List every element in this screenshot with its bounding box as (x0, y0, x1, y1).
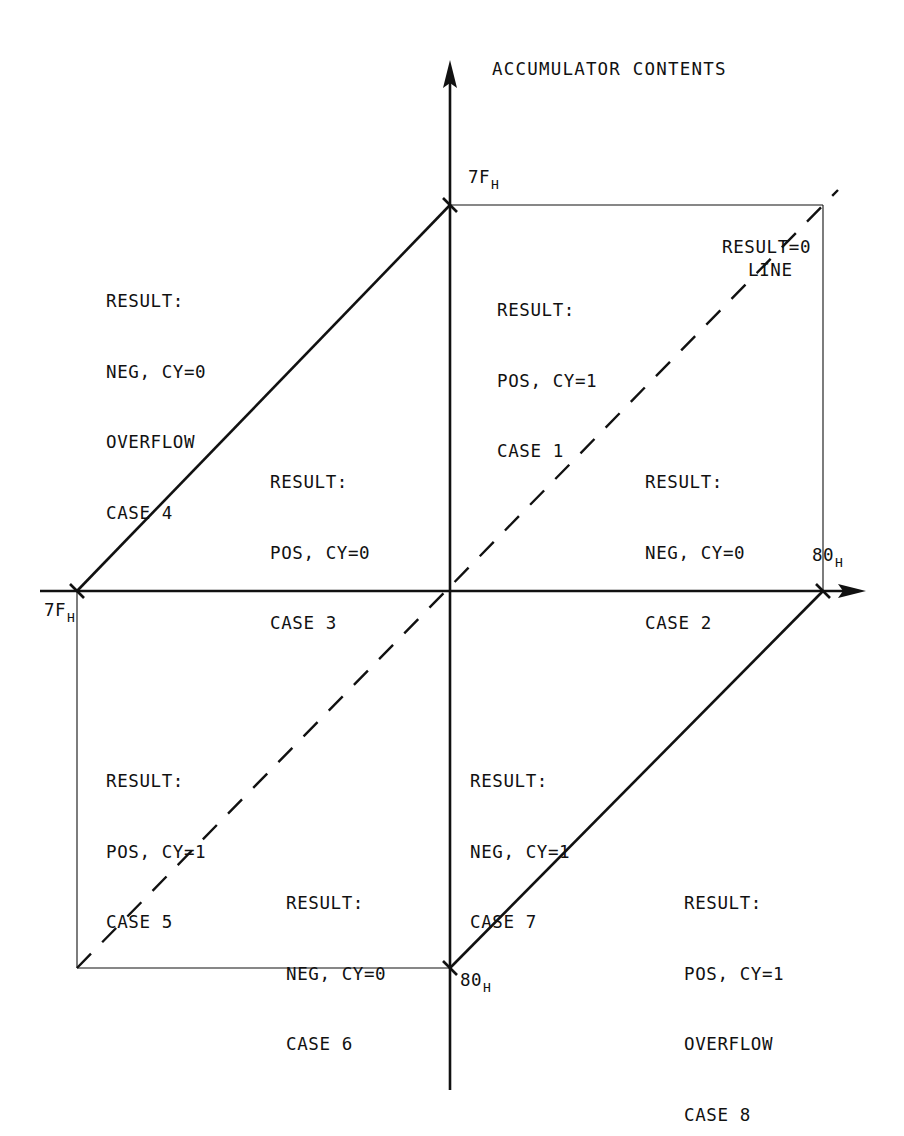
case-6-line-2: CASE 6 (286, 1033, 386, 1057)
tick-label-x-left: 7FH (44, 599, 74, 624)
case-8-line-0: RESULT: (684, 892, 784, 916)
case-8-line-3: CASE 8 (684, 1104, 784, 1128)
tick-label-y-bottom-subscript: H (483, 980, 491, 995)
case-4-line-3: CASE 4 (106, 502, 206, 526)
case-4-line-0: RESULT: (106, 290, 206, 314)
tick-label-x-right: 80H (812, 544, 842, 569)
y-axis-title: ACCUMULATOR CONTENTS (492, 58, 727, 82)
case-2-line-0: RESULT: (645, 471, 745, 495)
case-1-line-1: POS, CY=1 (497, 370, 597, 394)
case-6-line-1: NEG, CY=0 (286, 963, 386, 987)
case-8-line-2: OVERFLOW (684, 1033, 784, 1057)
case-label-2: RESULT: NEG, CY=0 CASE 2 (645, 424, 745, 683)
case-2-line-1: NEG, CY=0 (645, 542, 745, 566)
tick-label-x-right-subscript: H (835, 555, 843, 570)
diagram-root: ACCUMULATOR CONTENTS RESULT=0 LINE 7FH 8… (0, 0, 904, 1136)
case-4-line-2: OVERFLOW (106, 431, 206, 455)
case-7-line-0: RESULT: (470, 770, 570, 794)
case-1-line-2: CASE 1 (497, 440, 597, 464)
case-5-line-1: POS, CY=1 (106, 841, 206, 865)
case-label-6: RESULT: NEG, CY=0 CASE 6 (286, 845, 386, 1104)
case-label-3: RESULT: POS, CY=0 CASE 3 (270, 424, 370, 683)
case-label-1: RESULT: POS, CY=1 CASE 1 (497, 252, 597, 511)
tick-label-y-top: 7FH (468, 166, 498, 191)
case-3-line-0: RESULT: (270, 471, 370, 495)
y-axis (443, 60, 457, 1090)
tick-label-x-left-value: 7F (44, 600, 66, 620)
case-8-line-1: POS, CY=1 (684, 963, 784, 987)
case-6-line-0: RESULT: (286, 892, 386, 916)
tick-label-y-top-value: 7F (468, 167, 490, 187)
result-zero-label-line1: RESULT=0 (722, 236, 811, 260)
result-zero-label-line2: LINE (748, 259, 793, 283)
case-7-line-2: CASE 7 (470, 911, 570, 935)
case-label-7: RESULT: NEG, CY=1 CASE 7 (470, 723, 570, 982)
case-3-line-1: POS, CY=0 (270, 542, 370, 566)
tick-label-y-top-subscript: H (491, 177, 499, 192)
case-3-line-2: CASE 3 (270, 612, 370, 636)
case-7-line-1: NEG, CY=1 (470, 841, 570, 865)
case-2-line-2: CASE 2 (645, 612, 745, 636)
case-4-line-1: NEG, CY=0 (106, 361, 206, 385)
tick-label-x-right-value: 80 (812, 545, 834, 565)
case-label-4: RESULT: NEG, CY=0 OVERFLOW CASE 4 (106, 243, 206, 572)
case-5-line-2: CASE 5 (106, 911, 206, 935)
case-label-8: RESULT: POS, CY=1 OVERFLOW CASE 8 (684, 845, 784, 1136)
case-5-line-0: RESULT: (106, 770, 206, 794)
tick-label-x-left-subscript: H (67, 610, 75, 625)
case-1-line-0: RESULT: (497, 299, 597, 323)
case-label-5: RESULT: POS, CY=1 CASE 5 (106, 723, 206, 982)
